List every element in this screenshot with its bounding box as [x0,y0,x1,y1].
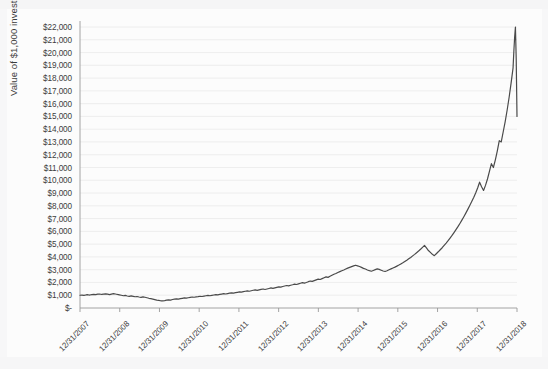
chart-container: Value of $1,000 investment $22,000$21,00… [0,0,548,369]
x-axis-tick-labels: 12/31/200712/31/200812/31/200912/31/2010… [0,0,548,369]
